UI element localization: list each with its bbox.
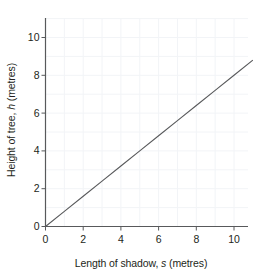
y-tick-label: 8 bbox=[18, 70, 40, 81]
x-tick-label: 4 bbox=[109, 234, 133, 245]
data-series-line bbox=[46, 60, 253, 226]
x-tick-label: 2 bbox=[71, 234, 95, 245]
x-tick-label: 8 bbox=[184, 234, 208, 245]
line-chart: Height of tree, h (metres) Length of sha… bbox=[0, 0, 258, 279]
y-tick-label: 2 bbox=[18, 183, 40, 194]
gridlines bbox=[46, 18, 249, 227]
y-tick-label: 10 bbox=[18, 32, 40, 43]
x-tick-label: 0 bbox=[34, 234, 58, 245]
y-tick-label: 4 bbox=[18, 145, 40, 156]
y-tick-label: 6 bbox=[18, 108, 40, 119]
y-tick-label: 0 bbox=[18, 221, 40, 232]
x-tick-label: 10 bbox=[222, 234, 246, 245]
x-tick-label: 6 bbox=[147, 234, 171, 245]
axis-ticks bbox=[42, 38, 235, 231]
